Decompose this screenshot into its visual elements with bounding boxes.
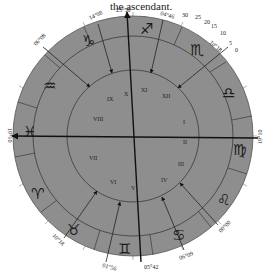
house-number: I (183, 119, 185, 125)
house-number: V (131, 185, 136, 191)
house-number: IX (107, 96, 114, 102)
virgo-icon: ♍ (233, 141, 246, 159)
c6-degree-label: 00°00 (217, 219, 231, 233)
capricorn-icon: ♑ (82, 32, 95, 50)
scale-mark: 20 (204, 19, 210, 25)
house-number: II (183, 139, 187, 145)
mc-degree-label: 25°50 (116, 7, 130, 13)
scale-mark: 5 (229, 40, 232, 46)
horoscope-wheel: ♑ ♐ ♏ ♎ ♍ ♌ ♋ ♊ ♉ ♈ ♓ ♒ 25°50 04°46 14°0… (0, 0, 270, 271)
pisces-icon: ♓ (23, 123, 36, 141)
c5-degree-label: 10°18 (51, 232, 65, 246)
scale-mark: 30 (182, 12, 188, 18)
asc-degree-label: 19°10 (7, 128, 13, 142)
libra-icon: ♎ (222, 84, 235, 102)
house-number: XII (162, 93, 170, 99)
scale-mark: 15 (211, 23, 217, 29)
scale-mark: 25 (195, 14, 201, 20)
c9-degree-label: 14°08 (88, 9, 104, 21)
cancer-icon: ♋ (172, 226, 185, 244)
house-number: XI (141, 87, 147, 93)
house-number: VI (110, 179, 116, 185)
c2-degree-label: 06°09 (178, 250, 194, 261)
house-number: III (178, 161, 184, 167)
gemini-icon: ♊ (118, 240, 131, 258)
dsc-degree-label: 19°10 (257, 130, 263, 144)
c8-degree-label: 06°08 (32, 32, 46, 46)
scale-mark: 10 (220, 30, 226, 36)
sagittarius-icon: ♐ (140, 20, 153, 38)
house-number: VIII (93, 116, 103, 122)
house-number: X (124, 91, 129, 97)
scorpio-icon: ♏ (190, 41, 204, 59)
aquarius-icon: ♒ (43, 77, 56, 95)
c3-degree-label: 01°56 (102, 262, 117, 271)
ic-degree-label: 05°42 (144, 264, 158, 270)
aries-icon: ♈ (31, 185, 44, 203)
house-number: IV (161, 177, 168, 183)
leo-icon: ♌ (217, 191, 230, 209)
c11-degree-label: 04°46 (160, 10, 175, 20)
scale-mark: 0 (235, 47, 238, 53)
house-number: VII (89, 155, 97, 161)
